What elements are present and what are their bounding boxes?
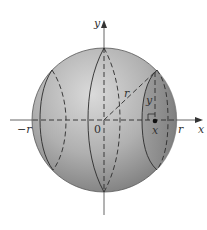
sphere-diagram: y x 0 −r r r y x <box>0 0 207 230</box>
slice-height-label: y <box>145 94 153 107</box>
neg-r-label: −r <box>17 123 32 136</box>
slice-x-label: x <box>152 124 159 137</box>
origin-label: 0 <box>94 123 101 136</box>
y-axis-label: y <box>93 17 101 30</box>
pos-r-label: r <box>178 123 184 136</box>
radius-label: r <box>124 87 130 100</box>
x-axis-label: x <box>198 123 205 136</box>
point-x-dot <box>153 119 158 124</box>
y-axis-arrow-icon <box>101 20 107 28</box>
